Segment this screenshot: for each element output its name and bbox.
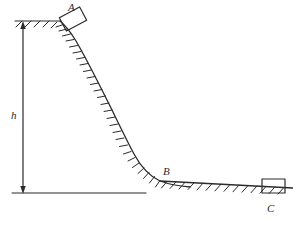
- label-point-b: B: [163, 166, 170, 177]
- physics-diagram-figure: A B C h: [0, 0, 293, 225]
- height-dimension-arrow: [20, 21, 25, 194]
- ground-surface: [160, 181, 293, 194]
- curved-incline-surface: [56, 21, 190, 187]
- diagram-canvas: [0, 0, 293, 225]
- incline-hatching: [56, 25, 160, 188]
- label-height-h: h: [11, 110, 17, 121]
- ground-hatching: [162, 181, 285, 194]
- label-block-c: C: [267, 203, 274, 214]
- label-block-a: A: [68, 2, 75, 13]
